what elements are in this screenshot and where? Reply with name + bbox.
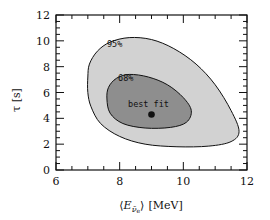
y-tick-label: 2: [43, 138, 50, 151]
contour-label-68pct: 68%: [118, 73, 133, 83]
x-axis-label: ⟨Eν̄e⟩[MeV]: [119, 199, 182, 214]
x-tick-label: 8: [116, 175, 123, 188]
x-tick-label: 10: [176, 175, 190, 188]
best-fit-label: best fit: [128, 99, 169, 109]
contour-regions: [88, 37, 240, 146]
y-tick-label: 10: [36, 35, 50, 48]
y-tick-label: 8: [43, 61, 50, 74]
x-label-close: ⟩: [140, 199, 144, 212]
y-axis-label: τ [s]: [10, 88, 23, 112]
y-tick-labels: 024681012: [36, 9, 50, 177]
x-label-unit: [MeV]: [148, 199, 182, 212]
x-tick-labels: 681012: [53, 175, 255, 188]
contour-chart: 95%68% best fit 681012 024681012 ⟨Eν̄e⟩[…: [0, 0, 270, 220]
x-tick-label: 12: [240, 175, 254, 188]
y-tick-label: 12: [36, 9, 50, 22]
x-label-var: E: [123, 199, 132, 212]
best-fit-marker: [148, 111, 155, 118]
y-tick-label: 0: [43, 164, 50, 177]
x-tick-label: 6: [53, 175, 60, 188]
contour-label-95pct: 95%: [107, 39, 122, 49]
y-tick-label: 4: [43, 112, 50, 125]
y-tick-label: 6: [43, 87, 50, 100]
